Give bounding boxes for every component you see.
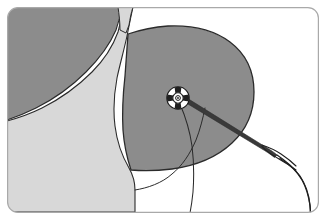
surgical-illustration: Surgical suture needle entering breast t… (0, 0, 326, 220)
figure-root: Surgical suture needle entering breast t… (0, 0, 326, 220)
target-marker[interactable] (167, 87, 189, 109)
target-marker-center-dot (177, 97, 179, 99)
